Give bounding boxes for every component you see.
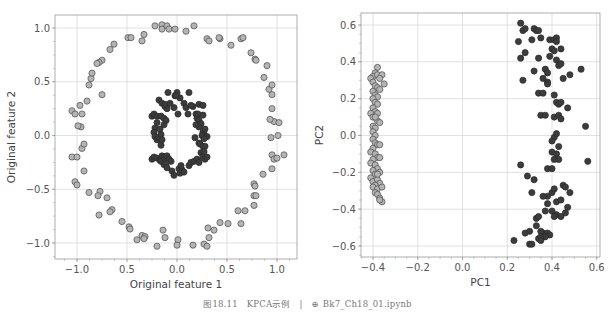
data-point	[522, 50, 528, 56]
data-point	[560, 75, 566, 81]
data-point	[191, 23, 197, 29]
data-point	[174, 242, 180, 248]
y-tick-label: 0.6	[340, 20, 356, 31]
data-point	[89, 70, 95, 76]
data-point	[565, 105, 571, 111]
data-point	[74, 154, 80, 160]
y-tick-label: −0.5	[26, 184, 50, 195]
data-point	[551, 213, 557, 219]
x-tick-label: 0.6	[589, 262, 605, 273]
y-axis-label: PC2	[313, 125, 325, 145]
y-tick-label: 0.0	[34, 130, 50, 141]
data-point	[81, 141, 87, 147]
data-point	[186, 89, 192, 95]
y-tick-label: −1.0	[26, 238, 50, 249]
data-point	[107, 46, 113, 52]
plot-area: −1.00.50.00.51.0−1.0−0.50.00.51.0Origina…	[5, 15, 297, 290]
data-point	[542, 112, 548, 118]
data-point	[205, 225, 211, 231]
plot-area: −0.4−0.20.00.20.40.6−0.6−0.4−0.20.00.20.…	[313, 13, 605, 288]
x-axis: −1.00.50.00.51.0	[65, 259, 290, 275]
data-point	[242, 208, 248, 214]
scatter-plot-kpca-components: −0.4−0.20.00.20.40.6−0.6−0.4−0.20.00.20.…	[305, 0, 615, 295]
data-point	[551, 186, 557, 192]
data-point	[585, 158, 591, 164]
data-point	[86, 82, 92, 88]
data-point	[216, 35, 222, 41]
data-point	[556, 143, 562, 149]
data-point	[171, 172, 177, 178]
data-point	[95, 193, 101, 199]
data-point	[553, 131, 559, 137]
data-point	[518, 162, 524, 168]
data-point	[181, 169, 187, 175]
data-point	[379, 184, 385, 190]
y-axis: −0.6−0.4−0.20.00.20.40.6	[332, 16, 361, 255]
notebook-filename[interactable]: Bk7_Ch18_01.ipynb	[323, 299, 412, 309]
data-point	[269, 106, 275, 112]
data-point	[542, 208, 548, 214]
data-point	[107, 209, 113, 215]
data-point	[235, 208, 241, 214]
data-point	[556, 156, 562, 162]
data-point	[165, 89, 171, 95]
data-point	[540, 90, 546, 96]
x-axis-label: Original feature 1	[130, 278, 222, 290]
y-tick-label: 0.2	[340, 93, 356, 104]
data-point	[160, 227, 166, 233]
data-point	[535, 27, 541, 33]
x-tick-label: 0.5	[119, 264, 135, 275]
y-axis-label: Original feature 2	[5, 91, 17, 183]
data-point	[562, 184, 568, 190]
data-point	[522, 230, 528, 236]
data-point	[274, 155, 280, 161]
y-tick-label: 0.5	[34, 76, 50, 87]
data-point	[567, 72, 573, 78]
y-tick-label: −0.2	[332, 167, 356, 178]
data-point	[134, 237, 140, 243]
data-point	[188, 102, 194, 108]
data-point	[190, 242, 196, 248]
data-point	[538, 237, 544, 243]
x-tick-label: 0.0	[169, 264, 185, 275]
data-point	[252, 183, 258, 189]
data-point	[518, 20, 524, 26]
data-point	[185, 111, 191, 117]
data-point	[524, 173, 530, 179]
data-point	[565, 204, 571, 210]
data-point	[99, 92, 105, 98]
data-point	[171, 104, 177, 110]
data-point	[225, 221, 231, 227]
data-point	[377, 120, 383, 126]
data-point	[141, 236, 147, 242]
data-point	[240, 35, 246, 41]
data-point	[127, 226, 133, 232]
data-point	[377, 197, 383, 203]
data-point	[166, 26, 172, 32]
data-point	[558, 61, 564, 67]
data-point	[172, 26, 178, 32]
data-point	[547, 53, 553, 59]
figure-title: KPCA示例	[247, 299, 291, 309]
data-point	[175, 111, 181, 117]
x-tick-label: 0.2	[499, 262, 515, 273]
data-point	[128, 35, 134, 41]
data-point	[200, 102, 206, 108]
y-tick-label: 1.0	[34, 23, 50, 34]
data-point	[549, 138, 555, 144]
data-point	[173, 93, 179, 99]
data-point	[544, 201, 550, 207]
data-point	[193, 122, 199, 128]
data-point	[217, 219, 223, 225]
data-point	[544, 70, 550, 76]
figure-caption: 图18.11 KPCA示例 | ⊕Bk7_Ch18_01.ipynb	[0, 297, 615, 309]
data-point	[567, 189, 573, 195]
data-point	[81, 168, 87, 174]
figure-number: 图18.11	[203, 299, 238, 309]
data-point	[152, 23, 158, 29]
data-point	[268, 135, 274, 141]
data-point	[269, 166, 275, 172]
data-point	[377, 155, 383, 161]
data-point	[74, 182, 80, 188]
data-point	[251, 202, 257, 208]
